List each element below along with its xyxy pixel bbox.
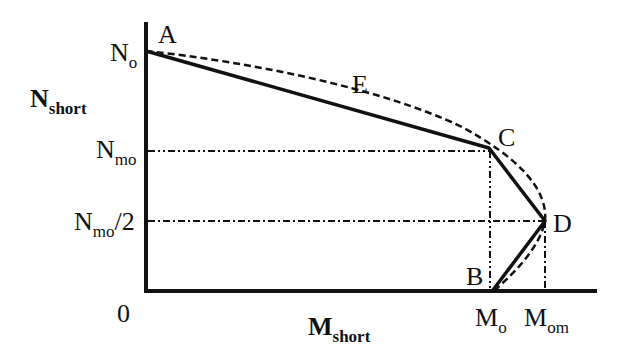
origin-label: 0 — [117, 301, 130, 327]
y-tick-nmo: Nmo — [96, 137, 137, 168]
y-tick-nmo-sub: mo — [115, 150, 137, 169]
y-axis-title: Nshort — [30, 86, 87, 117]
y-tick-no-main: N — [110, 38, 129, 67]
point-label-d: D — [553, 211, 572, 237]
y-tick-no: No — [110, 40, 137, 71]
exact-interaction-curve — [146, 51, 545, 290]
y-tick-nmo-half-main: N — [74, 207, 93, 236]
x-axis-title: Mshort — [308, 314, 370, 345]
y-tick-nmo-main: N — [96, 135, 115, 164]
x-axis-title-main: M — [308, 312, 333, 341]
x-tick-mo: Mo — [475, 305, 507, 336]
y-tick-nmo-half-sub: mo — [93, 222, 115, 241]
x-tick-mom: Mom — [524, 305, 569, 336]
x-axis-title-sub: short — [333, 327, 371, 346]
point-label-a: A — [158, 22, 177, 48]
x-tick-mo-sub: o — [498, 318, 507, 337]
point-label-e: E — [352, 72, 368, 98]
point-label-c: C — [498, 125, 515, 151]
y-axis-title-sub: short — [49, 99, 87, 118]
x-tick-mom-sub: om — [547, 318, 569, 337]
x-tick-mom-main: M — [524, 303, 547, 332]
y-tick-no-sub: o — [129, 53, 138, 72]
point-label-b: B — [466, 264, 483, 290]
x-tick-mo-main: M — [475, 303, 498, 332]
y-axis-title-main: N — [30, 84, 49, 113]
y-tick-nmo-half-suffix: /2 — [115, 207, 135, 236]
y-tick-nmo-half: Nmo/2 — [74, 209, 135, 240]
